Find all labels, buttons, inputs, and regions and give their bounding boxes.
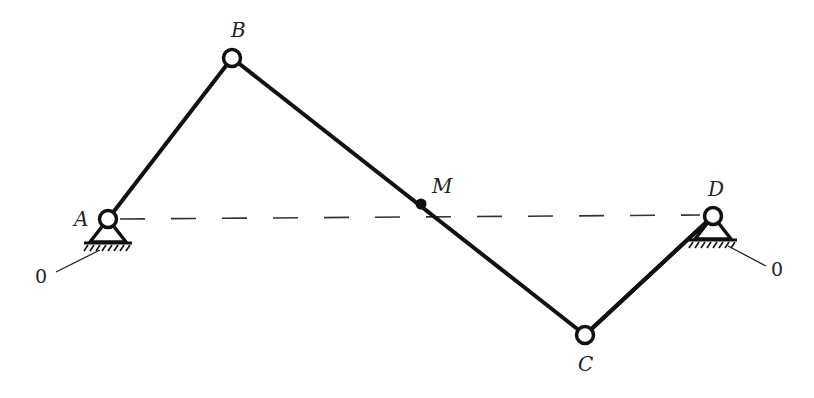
fixed-support-d xyxy=(689,216,766,266)
fixed-support-a xyxy=(56,219,132,272)
label-d: D xyxy=(707,177,724,201)
ground-label-left: 0 xyxy=(35,265,47,287)
linkage-diagram: A B C D M 0 0 xyxy=(0,0,814,398)
reference-line-ad xyxy=(120,215,700,219)
joint-a-icon xyxy=(100,211,117,228)
label-a: A xyxy=(72,207,88,231)
label-m: M xyxy=(431,174,453,198)
point-m-icon xyxy=(416,199,427,210)
joint-c-icon xyxy=(577,327,594,344)
ground-label-right: 0 xyxy=(771,258,783,280)
link-bc xyxy=(232,58,585,335)
joint-b-icon xyxy=(224,50,241,67)
joint-d-icon xyxy=(705,208,722,225)
label-b: B xyxy=(230,18,246,42)
leader-line-left xyxy=(56,250,100,272)
leader-line-right xyxy=(728,246,766,266)
label-c: C xyxy=(578,352,593,376)
link-ab xyxy=(108,58,232,219)
